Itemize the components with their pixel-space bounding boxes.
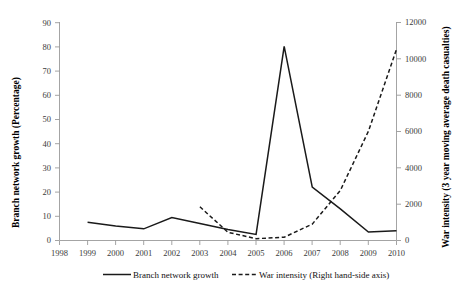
y-tick-label-30: 30	[43, 163, 52, 173]
x-tick-label-2003: 2003	[191, 248, 208, 258]
line-chart: Branch network growth (Percentage) War i…	[0, 0, 455, 292]
y2-axis-title: War intensity (3 year moving average dea…	[441, 26, 452, 248]
x-tick-label-2010: 2010	[388, 248, 405, 258]
x-tick-label-1998: 1998	[51, 248, 68, 258]
y2-tick-label-0: 0	[405, 235, 409, 245]
y-axis-ticks: 0 10 20 30 40 50 60 70 80 90	[43, 18, 60, 246]
x-tick-label-2002: 2002	[163, 248, 180, 258]
y-tick-label-60: 60	[43, 90, 52, 100]
y-tick-label-10: 10	[43, 211, 52, 221]
y-tick-label-20: 20	[43, 187, 52, 197]
y-tick-label-70: 70	[43, 66, 52, 76]
x-tick-label-2005: 2005	[248, 248, 265, 258]
y2-tick-label-6000: 6000	[405, 126, 422, 136]
x-tick-label-2004: 2004	[219, 248, 237, 258]
y2-axis-ticks: 0 2000 4000 6000 8000 10000 12000	[397, 17, 427, 245]
x-tick-label-2006: 2006	[276, 248, 293, 258]
series-war-intensity	[200, 49, 397, 238]
chart-figure: Branch network growth (Percentage) War i…	[0, 0, 455, 292]
x-tick-label-1999: 1999	[79, 248, 96, 258]
y-axis-title: Branch network growth (Percentage)	[11, 77, 22, 228]
y2-tick-label-2000: 2000	[405, 199, 422, 209]
x-tick-label-2009: 2009	[360, 248, 377, 258]
y2-tick-label-4000: 4000	[405, 163, 422, 173]
y-tick-label-50: 50	[43, 114, 52, 124]
y2-tick-label-12000: 12000	[405, 17, 426, 27]
y2-tick-label-10000: 10000	[405, 54, 426, 64]
legend-label-war-intensity: War intensity (Right hand-side axis)	[259, 270, 389, 280]
y-tick-label-40: 40	[43, 139, 52, 149]
y-tick-label-90: 90	[43, 18, 52, 28]
y-tick-label-0: 0	[47, 235, 51, 245]
series-branch-network-growth	[88, 46, 397, 234]
y-tick-label-80: 80	[43, 42, 52, 52]
x-tick-label-2001: 2001	[135, 248, 152, 258]
x-tick-label-2007: 2007	[304, 248, 321, 258]
chart-legend: Branch network growth War intensity (Rig…	[103, 270, 389, 280]
y2-tick-label-8000: 8000	[405, 90, 422, 100]
x-axis-ticks: 1998 1999 2000 2001 2002 2003 2004 2005 …	[51, 241, 405, 259]
legend-label-branch-network-growth: Branch network growth	[133, 270, 219, 280]
x-tick-label-2008: 2008	[332, 248, 349, 258]
x-tick-label-2000: 2000	[107, 248, 124, 258]
